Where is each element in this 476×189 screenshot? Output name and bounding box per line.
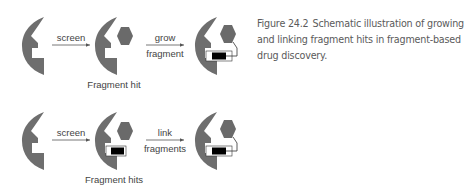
figure-number: Figure 24.2	[257, 18, 309, 29]
sublabel-fragment-hits: Fragment hits	[82, 174, 146, 185]
receptor-with-grown-fragment-icon	[195, 17, 217, 75]
receptor-with-linked-fragments-icon	[195, 112, 217, 170]
figure-caption: Figure 24.2Schematic illustration of gro…	[257, 16, 472, 64]
arrow-label-fragments: fragments	[142, 143, 188, 154]
sublabel-fragment-hit: Fragment hit	[84, 79, 144, 90]
row-growing	[22, 17, 237, 75]
arrow-label-grow: grow	[146, 32, 184, 43]
fragment-hexagon-icon	[117, 27, 133, 45]
fragment-block-icon	[111, 148, 124, 155]
arrow-label-link: link	[146, 127, 184, 138]
row-linking	[22, 112, 237, 170]
linked-block-icon	[212, 148, 226, 155]
grown-hexagon-icon	[220, 25, 236, 43]
receptor-empty-icon	[22, 112, 44, 170]
arrow-label-screen: screen	[52, 127, 90, 138]
receptor-with-hexagon-icon	[95, 17, 117, 75]
arrow-label-fragment: fragment	[144, 48, 186, 59]
receptor-with-two-fragments-icon	[95, 112, 117, 170]
linked-hexagon-icon	[220, 120, 236, 138]
receptor-empty-icon	[22, 17, 44, 75]
grown-block-icon	[212, 53, 226, 60]
arrow-label-screen: screen	[52, 32, 90, 43]
fragment-hexagon-icon	[117, 122, 133, 140]
fragment-based-drug-discovery-diagram: screen grow fragment Fragment hit screen…	[0, 0, 476, 189]
